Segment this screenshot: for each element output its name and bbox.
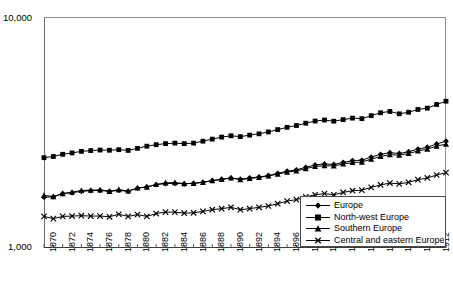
x-axis-tick-1872: 1872 [67,232,77,252]
x-axis-tick-1870: 1870 [48,232,58,252]
legend-symbol-diamond [305,200,331,211]
x-axis-tick-1888: 1888 [216,232,226,252]
legend-label-europe: Europe [331,200,363,211]
x-axis-tick-1876: 1876 [104,232,114,252]
series-europe [41,138,449,200]
legend-symbol-triangle [305,223,331,234]
legend-item-north-west-europe: North-west Europe [305,212,441,224]
legend-item-europe: Europe [305,200,441,212]
x-axis-tick-1886: 1886 [198,232,208,252]
legend-label-central-and-eastern-europe: Central and eastern Europe [331,235,445,246]
x-axis-tick-1884: 1884 [179,232,189,252]
series-north-west-europe [42,99,449,160]
x-axis-tick-1878: 1878 [123,232,133,252]
legend-symbol-square [305,212,331,223]
x-axis-tick-1874: 1874 [85,232,95,252]
x-axis-tick-1890: 1890 [235,232,245,252]
legend-label-southern-europe: Southern Europe [331,223,402,234]
x-axis-tick-1882: 1882 [160,232,170,252]
legend-item-central-and-eastern-europe: Central and eastern Europe [305,235,441,247]
legend-label-north-west-europe: North-west Europe [331,212,409,223]
x-axis-tick-1880: 1880 [141,232,151,252]
x-axis-tick-1892: 1892 [254,232,264,252]
x-axis-tick-1894: 1894 [272,232,282,252]
chart-root: 10,000 1,000 187018721874187618781880188… [0,0,453,291]
chart-legend: Europe North-west Europe Southern Europe… [300,196,446,247]
legend-item-southern-europe: Southern Europe [305,223,441,235]
legend-symbol-x [305,235,331,246]
